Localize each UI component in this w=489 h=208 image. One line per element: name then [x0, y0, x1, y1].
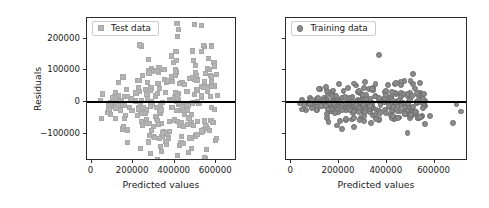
data-point — [351, 124, 357, 130]
legend-circle-marker-icon — [297, 25, 303, 31]
data-point — [405, 130, 411, 136]
data-point — [408, 112, 414, 118]
data-point — [367, 103, 373, 109]
data-point — [356, 88, 362, 94]
data-point — [362, 79, 368, 85]
data-point — [417, 80, 423, 86]
x-axis-title: Predicted values — [338, 180, 415, 189]
data-point — [395, 115, 401, 121]
legend-square-marker-icon — [98, 25, 104, 31]
data-point — [343, 116, 349, 122]
legend[interactable]: Test data — [92, 21, 159, 36]
legend-label: Training data — [310, 24, 367, 33]
data-point — [458, 109, 464, 115]
data-point — [422, 121, 428, 127]
data-point — [385, 82, 391, 88]
y-tick — [282, 101, 285, 102]
legend-label: Test data — [111, 24, 151, 33]
data-point — [345, 85, 351, 91]
data-point — [414, 90, 420, 96]
data-point — [356, 109, 362, 115]
data-point — [351, 81, 357, 87]
data-point — [351, 115, 357, 121]
x-tick — [434, 160, 435, 163]
data-point — [408, 78, 414, 84]
data-point — [326, 119, 332, 125]
legend[interactable]: Training data — [291, 21, 376, 36]
data-point — [299, 107, 305, 113]
data-point — [323, 84, 329, 90]
y-tick — [282, 133, 285, 134]
x-tick — [386, 160, 387, 163]
residual-plots-figure: 0200000400000600000−1000000100000200000P… — [0, 0, 489, 208]
data-point — [409, 93, 415, 99]
x-tick-label: 0 — [288, 166, 293, 175]
data-point — [339, 126, 345, 132]
data-point — [377, 110, 383, 116]
data-point — [376, 52, 382, 58]
data-point — [316, 86, 322, 92]
data-point — [332, 110, 338, 116]
x-tick — [338, 160, 339, 163]
data-point — [383, 92, 389, 98]
data-point — [401, 91, 407, 97]
plot-area — [286, 18, 466, 159]
y-tick — [282, 38, 285, 39]
data-point — [450, 120, 456, 126]
zero-reference-line — [286, 101, 466, 103]
data-point — [389, 89, 395, 95]
axes-frame — [285, 17, 467, 160]
data-point — [334, 123, 340, 129]
data-point — [329, 93, 335, 99]
x-tick-label: 400000 — [369, 166, 402, 175]
data-point — [361, 118, 367, 124]
data-point — [417, 114, 423, 120]
data-point — [336, 81, 342, 87]
y-tick — [282, 69, 285, 70]
data-point — [427, 113, 433, 119]
data-point — [398, 79, 404, 85]
data-point — [420, 105, 426, 111]
data-point — [410, 71, 416, 77]
x-tick-label: 600000 — [417, 166, 450, 175]
data-point — [342, 94, 348, 100]
data-point — [369, 86, 375, 92]
x-tick — [290, 160, 291, 163]
x-tick-label: 200000 — [322, 166, 355, 175]
data-point — [361, 85, 367, 91]
training-panel: 0200000400000600000Predicted valuesTrain… — [0, 0, 489, 208]
